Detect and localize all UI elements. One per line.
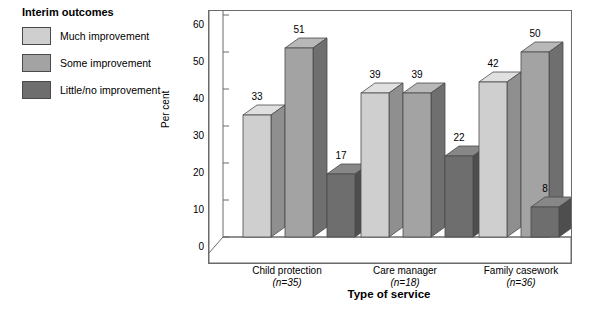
bar-care-manager-little	[445, 146, 487, 237]
bar-care-manager-some	[403, 83, 445, 237]
y-tick-60: 60	[186, 19, 204, 30]
bar-child-protection-much	[243, 105, 285, 237]
bar-value-care-manager-some: 39	[402, 69, 432, 80]
legend-swatch-little-no-improvement	[22, 81, 51, 99]
bar-value-family-casework-little: 8	[530, 183, 560, 194]
legend-label-much-improvement: Much improvement	[60, 30, 149, 42]
y-axis-label: Per cent	[160, 91, 171, 128]
bar-child-protection-little	[327, 164, 369, 237]
y-tick-30: 30	[186, 130, 204, 141]
x-category-label-0: Child protection	[252, 265, 321, 276]
legend-item-little-no-improvement: Little/no improvement	[22, 81, 202, 99]
legend-label-little-no-improvement: Little/no improvement	[60, 84, 160, 96]
legend-swatch-much-improvement	[22, 27, 51, 45]
y-tick-50: 50	[186, 56, 204, 67]
bar-value-care-manager-much: 39	[360, 69, 390, 80]
x-category-family-casework: Family casework (n=36)	[466, 265, 576, 289]
legend-item-much-improvement: Much improvement	[22, 27, 202, 45]
bar-family-casework-much	[479, 72, 521, 237]
y-tick-40: 40	[186, 93, 204, 104]
y-tick-20: 20	[186, 167, 204, 178]
bar-child-protection-some	[285, 38, 327, 237]
bar-family-casework-some	[521, 42, 563, 237]
bar-care-manager-much	[361, 83, 403, 237]
y-tick-10: 10	[186, 204, 204, 215]
bar-value-child-protection-some: 51	[284, 24, 314, 35]
x-axis-label: Type of service	[208, 288, 570, 300]
y-axis-ticks: 60 50 40 30 20 10 0 Per cent	[182, 10, 204, 262]
legend-label-some-improvement: Some improvement	[60, 57, 151, 69]
legend-item-some-improvement: Some improvement	[22, 54, 202, 72]
bar-value-family-casework-some: 50	[520, 28, 550, 39]
bar-value-child-protection-little: 17	[326, 150, 356, 161]
x-category-care-manager: Care manager (n=18)	[350, 265, 460, 289]
plot-area: 33 51 17 39 39 22 42 50 8	[208, 10, 572, 264]
legend-title: Interim outcomes	[22, 6, 202, 18]
legend-swatch-some-improvement	[22, 54, 51, 72]
x-category-label-1: Care manager	[373, 265, 437, 276]
x-category-sublabel-2: (n=36)	[506, 277, 535, 288]
bar-family-casework-little	[531, 197, 571, 237]
bar-value-care-manager-little: 22	[444, 132, 474, 143]
x-category-label-2: Family casework	[484, 265, 558, 276]
bar-value-family-casework-much: 42	[478, 58, 508, 69]
y-tick-0: 0	[186, 241, 204, 252]
x-category-sublabel-0: (n=35)	[272, 277, 301, 288]
chart-3d-canvas	[209, 11, 571, 263]
chart-figure: Interim outcomes Much improvement Some i…	[0, 0, 589, 315]
bar-value-child-protection-much: 33	[242, 91, 272, 102]
x-category-sublabel-1: (n=18)	[390, 277, 419, 288]
x-category-child-protection: Child protection (n=35)	[232, 265, 342, 289]
legend: Interim outcomes Much improvement Some i…	[22, 6, 202, 108]
